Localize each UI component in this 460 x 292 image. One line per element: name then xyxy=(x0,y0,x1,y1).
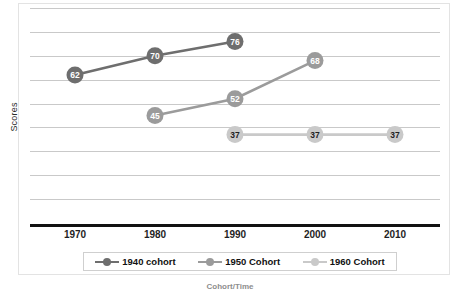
data-point-label: 68 xyxy=(310,56,320,66)
series-1: 627076 xyxy=(67,33,244,83)
x-tick-label: 2000 xyxy=(285,229,345,240)
legend-marker-icon xyxy=(303,257,327,267)
data-point-label: 70 xyxy=(150,51,160,61)
legend-marker-icon xyxy=(95,257,119,267)
data-point-label: 52 xyxy=(230,94,240,104)
x-axis-tick-labels: 19701980199020002010 xyxy=(30,229,440,245)
data-point-label: 37 xyxy=(230,130,240,140)
legend-item-3[interactable]: 1960 Cohort xyxy=(303,256,385,267)
series-layer: 627076455268373737 xyxy=(30,8,440,223)
line-chart: Scores 627076455268373737 19701980199020… xyxy=(0,0,460,292)
x-axis-title: Cohort/Time xyxy=(0,282,460,292)
legend-item-1[interactable]: 1940 cohort xyxy=(95,256,175,267)
legend-marker-icon xyxy=(198,257,222,267)
x-tick-label: 1970 xyxy=(45,229,105,240)
data-point-label: 76 xyxy=(230,37,240,47)
data-point-label: 62 xyxy=(70,70,80,80)
data-point-label: 37 xyxy=(310,130,320,140)
y-axis-title: Scores xyxy=(9,87,19,147)
data-point-label: 45 xyxy=(150,111,160,121)
series-3: 373737 xyxy=(227,126,404,143)
x-tick-label: 1980 xyxy=(125,229,185,240)
chart-legend: 1940 cohort1950 Cohort1960 Cohort xyxy=(83,252,397,271)
data-point-label: 37 xyxy=(390,130,400,140)
x-axis-line xyxy=(30,224,440,227)
x-tick-label: 2010 xyxy=(365,229,425,240)
legend-label: 1960 Cohort xyxy=(330,256,385,267)
x-tick-label: 1990 xyxy=(205,229,265,240)
legend-label: 1940 cohort xyxy=(122,256,175,267)
legend-label: 1950 Cohort xyxy=(225,256,280,267)
series-2: 455268 xyxy=(147,52,324,124)
legend-item-2[interactable]: 1950 Cohort xyxy=(198,256,280,267)
